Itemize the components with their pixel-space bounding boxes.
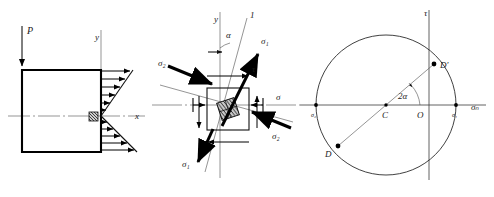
- figure-canvas: P y x: [0, 0, 494, 197]
- label-element-y-axis: y: [213, 14, 218, 24]
- point-sigma2: [314, 103, 318, 107]
- label-mohr-sigma2: σ₂: [311, 112, 316, 118]
- stress-distribution-upper: [101, 70, 133, 116]
- point-center-C: [384, 103, 387, 106]
- label-mohr-2alpha: 2α: [398, 91, 408, 101]
- label-mohr-origin-O: O: [417, 110, 424, 120]
- beam-material-element: [89, 112, 98, 121]
- label-mohr-center-C: C: [382, 110, 389, 120]
- mohr-2alpha-arc: [411, 85, 420, 105]
- label-mohr-sigma-n-axis: σₙ: [471, 102, 479, 112]
- point-sigma1: [454, 103, 458, 107]
- label-mohr-tau-axis: τ: [424, 8, 428, 18]
- sigma1-arrow-lower: [198, 129, 213, 162]
- label-sigma1-upper: σ₁: [261, 36, 269, 46]
- mohr-panel: τ σₙ σ₂ σ₁ C O D D′ 2α: [300, 8, 486, 180]
- beam-panel: P y x: [8, 25, 145, 152]
- point-D: [336, 144, 341, 149]
- engineering-diagram: P y x: [0, 0, 494, 197]
- label-sigma2-right: σ₂: [272, 131, 280, 141]
- point-D-prime: [432, 62, 437, 67]
- principal-axis-1-line: [205, 18, 247, 172]
- label-mohr-point-D-prime: D′: [439, 60, 449, 70]
- alpha-angle-arc: [220, 43, 230, 48]
- label-sigma1-lower: σ₁: [182, 159, 190, 169]
- element-panel: y 1 α σ₁ σ₁ σ₂ σ₂ σ τ: [152, 10, 300, 178]
- label-alpha-angle: α: [226, 30, 231, 40]
- sigma2-arrow-left: [168, 66, 212, 84]
- label-sigma: σ: [276, 92, 281, 102]
- label-beam-x-axis: x: [134, 111, 139, 121]
- label-mohr-sigma1: σ₁: [452, 112, 457, 118]
- label-mohr-point-D: D: [324, 149, 332, 159]
- beam-body: [22, 70, 101, 152]
- label-principal-direction-1: 1: [250, 10, 255, 20]
- label-sigma2-left: σ₂: [158, 58, 166, 68]
- label-beam-y-axis: y: [94, 32, 99, 42]
- label-load-P: P: [26, 25, 33, 36]
- label-tau: τ: [252, 64, 256, 74]
- stress-distribution-lower: [101, 116, 137, 152]
